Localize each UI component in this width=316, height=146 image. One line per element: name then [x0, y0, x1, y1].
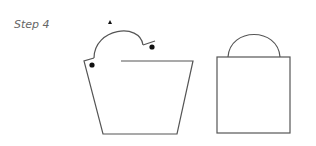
dot-right	[149, 44, 154, 49]
diagram-canvas	[0, 0, 316, 146]
open-bag-shape	[84, 31, 193, 134]
triangle-marker-icon	[108, 20, 112, 24]
dot-left	[89, 62, 94, 67]
closed-bag-shape	[217, 35, 290, 134]
